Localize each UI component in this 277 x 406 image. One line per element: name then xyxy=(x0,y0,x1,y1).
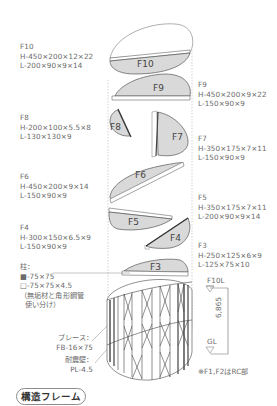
level-f10l-label: F10L xyxy=(207,276,225,286)
svg-text:F4: F4 xyxy=(170,233,181,243)
spec-f4-name: F4 xyxy=(20,223,91,233)
spec-f10-h: H-450×200×12×22 xyxy=(20,52,93,62)
spec-f8-name: F8 xyxy=(20,113,91,123)
spec-f3: F3 H-250×125×6×9 L-125×75×10 xyxy=(198,241,262,270)
level-gl-label: GL xyxy=(207,337,217,347)
svg-text:F5: F5 xyxy=(128,217,139,227)
spec-f4: F4 H-300×150×6.5×9 L-150×90×9 xyxy=(20,223,91,252)
spec-f7-l: L-150×90×9 xyxy=(198,153,267,163)
svg-text:F10: F10 xyxy=(137,59,154,69)
column-note-line2: 使い分け） xyxy=(20,300,84,310)
spec-f8: F8 H-200×100×5.5×8 L-130×130×9 xyxy=(20,113,91,142)
spec-f5-h: H-350×175×7×11 xyxy=(198,203,267,213)
floor-f6-shape: F6 xyxy=(110,162,184,203)
svg-text:F7: F7 xyxy=(172,132,183,142)
spec-f9-h: H-450×200×9×22 xyxy=(198,90,267,100)
level-marker-icon xyxy=(206,286,214,292)
spec-f9-name: F9 xyxy=(198,80,267,90)
floor-f7-shape: F7 xyxy=(152,111,188,157)
spec-f4-h: H-300×150×6.5×9 xyxy=(20,233,91,243)
floor-f8-shape: F8 xyxy=(110,109,131,137)
svg-text:F8: F8 xyxy=(110,122,121,132)
wall-spec: 耐震壁： PL-4.5 xyxy=(55,355,93,374)
rc-note: ※F1,F2はRC部 xyxy=(198,367,248,377)
column-note-line1: （無垢材と角形鋼管 xyxy=(20,291,84,301)
spec-f9-l: L-150×90×9 xyxy=(198,99,267,109)
floor-f5-shape: F5 xyxy=(109,208,172,230)
svg-text:F6: F6 xyxy=(135,170,146,180)
spec-f6-l: L-150×90×9 xyxy=(20,191,89,201)
spec-f7-h: H-350×175×7×11 xyxy=(198,144,267,154)
spec-f9: F9 H-450×200×9×22 L-150×90×9 xyxy=(198,80,267,109)
cylinder-frame xyxy=(107,279,192,380)
spec-f7-name: F7 xyxy=(198,134,267,144)
spec-f10-l: L-200×90×9×14 xyxy=(20,61,93,71)
brace-value: FB-16×75 xyxy=(55,343,93,353)
spec-f7: F7 H-350×175×7×11 L-150×90×9 xyxy=(198,134,267,163)
spec-f3-name: F3 xyxy=(198,241,262,251)
spec-f5-name: F5 xyxy=(198,193,267,203)
spec-f6: F6 H-450×200×9×14 L-150×90×9 xyxy=(20,172,89,201)
svg-text:F9: F9 xyxy=(153,83,164,93)
brace-spec: ブレース： FB-16×75 xyxy=(55,333,93,352)
spec-f10: F10 H-450×200×12×22 L-200×90×9×14 xyxy=(20,42,93,71)
spec-f6-h: H-450×200×9×14 xyxy=(20,182,89,192)
wall-label: 耐震壁： xyxy=(55,355,93,365)
brace-label: ブレース： xyxy=(55,333,93,343)
spec-f3-h: H-250×125×6×9 xyxy=(198,251,262,261)
spec-f8-h: H-200×100×5.5×8 xyxy=(20,123,91,133)
column-spec: 柱： ■-75×75 □-75×75×4.5 （無垢材と角形鋼管 使い分け） xyxy=(20,262,84,310)
wall-value: PL-4.5 xyxy=(55,365,93,375)
column-heading: 柱： xyxy=(20,262,84,272)
spec-f5-l: L-200×90×9×14 xyxy=(198,212,267,222)
spec-f6-name: F6 xyxy=(20,172,89,182)
spec-f8-l: L-130×130×9 xyxy=(20,132,91,142)
svg-text:F3: F3 xyxy=(150,262,161,272)
column-solid-spec: ■-75×75 xyxy=(20,272,84,282)
spec-f10-name: F10 xyxy=(20,42,93,52)
spec-f4-l: L-150×90×9 xyxy=(20,242,91,252)
height-dimension-value: 6,865 xyxy=(214,297,224,318)
floor-f9-shape: F9 xyxy=(112,74,190,100)
spec-f5: F5 H-350×175×7×11 L-200×90×9×14 xyxy=(198,193,267,222)
section-title: 構造フレーム xyxy=(16,388,86,405)
spec-f3-l: L-125×75×10 xyxy=(198,260,262,270)
level-marker-icon xyxy=(206,347,214,353)
column-hollow-spec: □-75×75×4.5 xyxy=(20,281,84,291)
floor-f10-shape: F10 xyxy=(110,24,193,74)
floor-f3-shape: F3 xyxy=(122,259,188,276)
